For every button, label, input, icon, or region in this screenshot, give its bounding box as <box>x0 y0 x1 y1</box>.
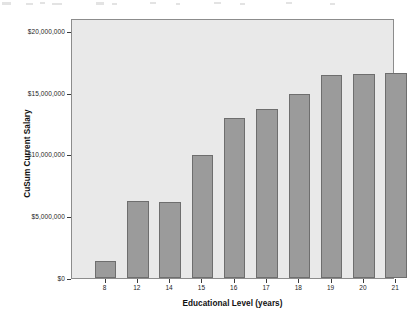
y-tick-label: $5,000,000 <box>31 214 65 221</box>
x-tick-label: 20 <box>359 285 366 292</box>
y-tick-label: $10,000,000 <box>28 152 65 159</box>
plot-area <box>71 19 394 279</box>
bar <box>95 261 117 278</box>
x-axis: 8121415161718192021 Educational Level (y… <box>0 279 412 322</box>
x-tick-mark <box>105 279 106 283</box>
x-tick-mark <box>331 279 332 283</box>
x-tick-mark <box>395 279 396 283</box>
x-tick-mark <box>266 279 267 283</box>
bar <box>385 73 407 278</box>
x-tick-mark <box>201 279 202 283</box>
x-tick-label: 15 <box>198 285 205 292</box>
bar <box>192 155 214 279</box>
x-tick-label: 12 <box>133 285 140 292</box>
y-axis: CuSum Current Salary $0$5,000,000$10,000… <box>0 0 71 322</box>
bar <box>321 75 343 278</box>
x-tick-label: 14 <box>165 285 172 292</box>
x-tick-label: 21 <box>392 285 399 292</box>
y-tick-label: $15,000,000 <box>28 90 65 97</box>
chart-figure: CuSum Current Salary $0$5,000,000$10,000… <box>0 0 412 322</box>
x-tick-mark <box>137 279 138 283</box>
x-tick-mark <box>234 279 235 283</box>
x-axis-title: Educational Level (years) <box>71 299 394 308</box>
bar <box>127 201 149 278</box>
x-tick-mark <box>169 279 170 283</box>
x-tick-label: 17 <box>262 285 269 292</box>
x-tick-label: 8 <box>103 285 107 292</box>
bar-group <box>72 20 393 278</box>
x-tick-label: 16 <box>230 285 237 292</box>
x-tick-label: 18 <box>295 285 302 292</box>
bar <box>256 109 278 278</box>
bar <box>289 94 311 278</box>
bar <box>159 202 181 278</box>
y-tick-label: $20,000,000 <box>28 29 65 36</box>
x-tick-mark <box>298 279 299 283</box>
bar <box>353 74 375 278</box>
bar <box>224 118 246 278</box>
x-tick-label: 19 <box>327 285 334 292</box>
x-tick-mark <box>363 279 364 283</box>
